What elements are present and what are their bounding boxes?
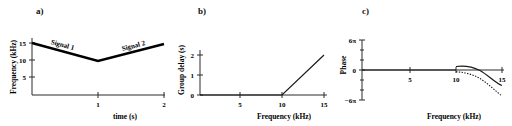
panel-b-xlabel-15: 15 (321, 101, 329, 109)
panel-a-xlabel-1: 1 (96, 101, 100, 109)
panel-a-ylabel-10: 10 (19, 57, 27, 65)
panel-c-ylabel-pos6pi: 6π (349, 37, 357, 45)
panel-c: c) 6π 0 −6π 5 10 15 (332, 0, 512, 126)
panel-c-xlabel-10: 10 (453, 76, 461, 84)
panel-b-xlabel-10: 10 (279, 101, 287, 109)
panel-c-y-axis-title: Phase (339, 55, 348, 74)
panel-c-plot: 6π 0 −6π 5 10 15 Phase Frequency (kHz) (332, 0, 512, 126)
panel-b-xlabel-5: 5 (238, 101, 242, 109)
panel-c-ylabel-neg6pi: −6π (345, 97, 356, 105)
panel-a: a) 15 10 5 1 2 Frequency (kHz) time (s) (0, 0, 172, 126)
panel-c-x-axis-title: Frequency (kHz) (427, 112, 482, 121)
panel-b-y-axis-title: Group delay (s) (177, 45, 186, 95)
panel-b: b) 2 1 0 5 10 15 Group delay (s) Frequen… (172, 0, 332, 126)
panel-b-x-axis-title: Frequency (kHz) (257, 112, 312, 121)
panel-b-ylabel-0: 0 (191, 92, 195, 100)
panel-c-ylabel-0: 0 (353, 67, 357, 75)
figure-canvas: a) 15 10 5 1 2 Frequency (kHz) time (s) (0, 0, 512, 126)
panel-a-plot: 15 10 5 1 2 Frequency (kHz) time (s) Sig… (0, 0, 172, 126)
panel-a-ylabel-15: 15 (19, 40, 27, 48)
panel-b-ylabel-1: 1 (191, 72, 195, 80)
panel-c-phase-solid-curve (456, 66, 502, 85)
panel-a-y-axis-title: Frequency (kHz) (9, 39, 18, 94)
panel-b-ylabel-2: 2 (191, 52, 195, 60)
panel-b-plot: 2 1 0 5 10 15 Group delay (s) Frequency … (172, 0, 332, 126)
panel-b-group-delay-curve (200, 55, 324, 95)
panel-a-x-axis-title: time (s) (113, 112, 137, 121)
panel-c-xlabel-15: 15 (499, 76, 507, 84)
panel-a-xlabel-2: 2 (162, 101, 166, 109)
panel-a-ylabel-5: 5 (23, 74, 27, 82)
panel-c-xlabel-5: 5 (408, 76, 412, 84)
panel-c-phase-dotted-curve (456, 72, 502, 96)
